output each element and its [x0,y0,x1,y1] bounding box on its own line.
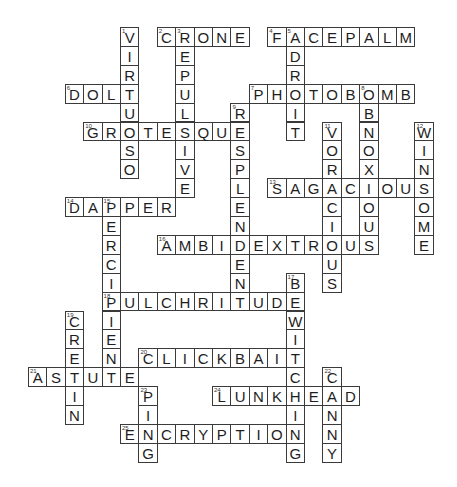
crossword-cell[interactable]: 25E [120,424,139,444]
crossword-cell[interactable]: C [157,424,176,444]
crossword-cell[interactable]: T [65,367,84,387]
crossword-cell[interactable]: I [267,348,286,368]
crossword-cell[interactable]: U [175,84,194,104]
crossword-cell[interactable]: U [341,235,360,255]
crossword-cell[interactable]: N [138,424,157,444]
crossword-cell[interactable]: I [175,140,194,160]
crossword-cell[interactable]: E [230,27,249,47]
crossword-cell[interactable]: E [230,197,249,217]
crossword-cell[interactable]: A [249,348,268,368]
crossword-cell[interactable]: B [359,103,378,123]
crossword-cell[interactable]: E [102,329,121,349]
crossword-cell[interactable]: T [138,122,157,142]
crossword-cell[interactable]: E [230,122,249,142]
crossword-cell[interactable]: K [267,386,286,406]
crossword-cell[interactable]: N [359,122,378,142]
crossword-cell[interactable]: R [322,159,341,179]
crossword-cell[interactable]: S [175,122,194,142]
crossword-cell[interactable]: U [359,216,378,236]
crossword-cell[interactable]: E [157,122,176,142]
crossword-cell[interactable]: A [359,27,378,47]
crossword-cell[interactable]: O [359,140,378,160]
crossword-cell[interactable]: 2C [157,27,176,47]
crossword-cell[interactable]: R [102,235,121,255]
crossword-cell[interactable]: E [138,197,157,217]
crossword-cell[interactable]: L [230,178,249,198]
crossword-cell[interactable]: T [102,367,121,387]
crossword-cell[interactable]: P [230,159,249,179]
crossword-cell[interactable]: O [194,27,213,47]
crossword-cell[interactable]: 10G [83,122,102,142]
crossword-cell[interactable]: U [212,122,231,142]
crossword-cell[interactable]: C [194,348,213,368]
crossword-cell[interactable]: D [286,46,305,66]
crossword-cell[interactable]: N [286,424,305,444]
crossword-cell[interactable]: O [322,235,341,255]
crossword-cell[interactable]: C [322,197,341,217]
crossword-cell[interactable]: R [304,235,323,255]
crossword-cell[interactable]: A [322,178,341,198]
crossword-cell[interactable]: L [138,292,157,312]
crossword-cell[interactable]: O [359,197,378,217]
crossword-cell[interactable]: R [157,197,176,217]
crossword-cell[interactable]: P [175,65,194,85]
crossword-cell[interactable]: R [175,424,194,444]
crossword-cell[interactable]: U [230,386,249,406]
crossword-cell[interactable]: O [267,424,286,444]
crossword-cell[interactable]: N [102,348,121,368]
crossword-cell[interactable]: 19C [65,311,84,331]
crossword-cell[interactable]: I [286,405,305,425]
crossword-cell[interactable]: N [65,405,84,425]
crossword-cell[interactable]: S [46,367,65,387]
crossword-cell[interactable]: N [414,159,433,179]
crossword-cell[interactable]: 9R [230,103,249,123]
crossword-cell[interactable]: 6D [65,84,84,104]
crossword-cell[interactable]: G [304,178,323,198]
crossword-cell[interactable]: E [102,216,121,236]
crossword-cell[interactable]: C [341,178,360,198]
crossword-cell[interactable]: T [304,84,323,104]
crossword-cell[interactable]: U [120,103,139,123]
crossword-cell[interactable]: H [267,84,286,104]
crossword-cell[interactable]: N [230,216,249,236]
crossword-cell[interactable]: 1V [120,27,139,47]
crossword-cell[interactable]: U [322,254,341,274]
crossword-cell[interactable]: U [120,292,139,312]
crossword-cell[interactable]: E [120,367,139,387]
crossword-cell[interactable]: E [175,46,194,66]
crossword-cell[interactable]: Y [322,443,341,463]
crossword-cell[interactable]: C [102,254,121,274]
crossword-cell[interactable]: E [414,235,433,255]
crossword-cell[interactable]: C [304,27,323,47]
crossword-cell[interactable]: I [102,311,121,331]
crossword-cell[interactable]: X [359,159,378,179]
crossword-cell[interactable]: 7P [249,84,268,104]
crossword-cell[interactable]: O [120,159,139,179]
crossword-cell[interactable]: L [157,348,176,368]
crossword-cell[interactable]: S [414,178,433,198]
crossword-cell[interactable]: T [286,348,305,368]
crossword-cell[interactable]: 23P [138,386,157,406]
crossword-cell[interactable]: I [359,178,378,198]
crossword-cell[interactable]: E [322,27,341,47]
crossword-cell[interactable]: I [102,273,121,293]
crossword-cell[interactable]: D [341,386,360,406]
crossword-cell[interactable]: U [83,367,102,387]
crossword-cell[interactable]: B [396,84,415,104]
crossword-cell[interactable]: D [230,235,249,255]
crossword-cell[interactable]: T [120,84,139,104]
crossword-cell[interactable]: E [286,292,305,312]
crossword-cell[interactable]: A [83,197,102,217]
crossword-cell[interactable]: O [322,140,341,160]
crossword-cell[interactable]: 17B [286,273,305,293]
crossword-cell[interactable]: Y [194,424,213,444]
crossword-cell[interactable]: N [212,27,231,47]
crossword-cell[interactable]: 20C [138,348,157,368]
crossword-cell[interactable]: O [83,84,102,104]
crossword-cell[interactable]: 3R [175,27,194,47]
crossword-cell[interactable]: S [230,140,249,160]
crossword-cell[interactable]: D [267,292,286,312]
crossword-cell[interactable]: 21A [28,367,47,387]
crossword-cell[interactable]: 12W [414,122,433,142]
crossword-cell[interactable]: 4F [267,27,286,47]
